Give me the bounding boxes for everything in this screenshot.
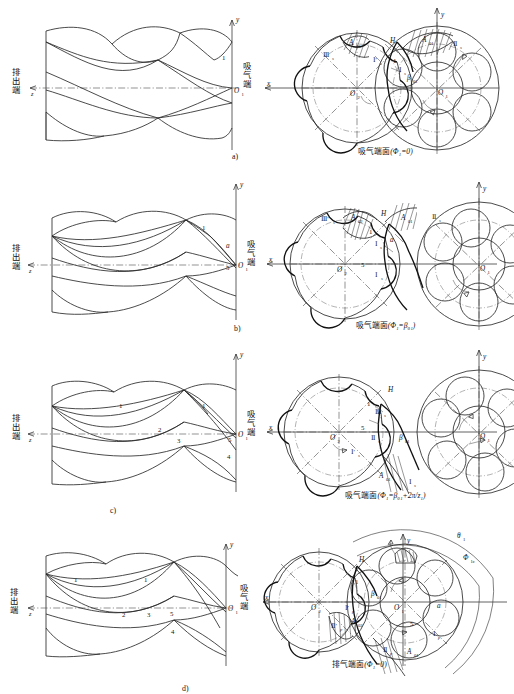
axis-label-y: y bbox=[440, 11, 445, 19]
axis-label-y: y bbox=[229, 541, 234, 549]
callout-I-p: Ⅰ bbox=[433, 630, 436, 637]
point-label-5: 5 bbox=[410, 620, 414, 627]
helix-development-b: 1 a 5 y z O 1 排 出 端 吸 气 端 bbox=[0, 172, 257, 345]
callout-II-s: Ⅱ bbox=[432, 213, 437, 220]
callout-I-s-prime-sub: s bbox=[358, 453, 360, 458]
callout-A01: A bbox=[406, 648, 412, 656]
suction-end-label-b: 吸 气 端 bbox=[247, 240, 255, 267]
callout-I-s-sub: s bbox=[404, 71, 406, 76]
callout-A02-prime: A bbox=[350, 214, 356, 222]
origin-sub-2: 2 bbox=[358, 95, 361, 100]
origin-label-o2: O bbox=[337, 266, 343, 274]
origin-label-o1: O bbox=[238, 431, 244, 439]
origin-sub-1: 1 bbox=[246, 267, 249, 272]
callout-beta01-sub: 01 bbox=[377, 595, 382, 600]
point-label-5: 5 bbox=[170, 610, 174, 617]
discharge-end-label-d: 排 出 端 bbox=[10, 588, 18, 615]
callout-A02-prime-sub: 02 bbox=[356, 44, 361, 49]
helix-development-c: 1 1 2 3 4 5 y z O 1 排 出 端 吸 气 端 bbox=[0, 344, 257, 517]
origin-label-o2: O bbox=[350, 90, 356, 98]
axis-label-z: z bbox=[28, 436, 32, 443]
callout-II-p: Ⅱ bbox=[383, 646, 388, 653]
figure-row-d: 1 1 2 3 4 5 y z O 1 排 出 端 吸 气 端 bbox=[0, 516, 514, 689]
origin-label-o1: O bbox=[480, 433, 486, 441]
callout-I-s-prime-sub: s bbox=[380, 245, 382, 250]
origin-sub-1: 1 bbox=[446, 94, 449, 99]
callout-II-s: Ⅱ bbox=[371, 434, 376, 441]
callout-A02-prime: A bbox=[350, 618, 356, 626]
figure-root: 1 y z O 1 排 出 端 吸 气 端 bbox=[0, 0, 514, 694]
callout-A02-prime-sub: 02 bbox=[358, 623, 363, 628]
callout-III-s: Ⅲ bbox=[323, 51, 329, 58]
figure-letter-a: a) bbox=[232, 152, 238, 161]
callout-A01: A bbox=[421, 36, 427, 44]
point-label-1: 1 bbox=[393, 57, 396, 64]
callout-A01-sub: 01 bbox=[386, 477, 391, 482]
callout-I-s-sub: s bbox=[381, 276, 383, 281]
point-label-5: 5 bbox=[361, 261, 365, 268]
figure-letter-c: c) bbox=[110, 506, 116, 515]
discharge-end-label-b: 排 出 端 bbox=[12, 244, 20, 271]
discharge-end-label-a: 排 出 端 bbox=[12, 68, 20, 95]
figure-letter-b: b) bbox=[234, 324, 241, 333]
callout-theta1-sub: 1 bbox=[463, 537, 466, 542]
callout-III-s-prime-sub: s bbox=[333, 220, 335, 225]
callout-I-s: Ⅰ bbox=[375, 271, 378, 278]
callout-beta01: β bbox=[398, 434, 403, 442]
callout-II-s: Ⅱ bbox=[453, 40, 458, 47]
axis-label-x: x bbox=[268, 256, 273, 264]
origin-label-o1: O bbox=[438, 89, 444, 97]
callout-A02-prime: A bbox=[348, 39, 354, 47]
point-label-5: 5 bbox=[361, 424, 365, 431]
axis-label-z: z bbox=[30, 90, 34, 97]
point-label-5: 5 bbox=[228, 436, 232, 443]
callout-A02-prime-sub: 02 bbox=[358, 219, 363, 224]
section-caption-b: 吸气端面(Φ₁=β₀₁) bbox=[257, 319, 514, 330]
callout-III-s: Ⅲ bbox=[375, 408, 381, 415]
callout-I-s-sub: s bbox=[414, 483, 416, 488]
end-section-b: Ⅲ′ s A 02 ′ H A 01 Ⅱ s 1 Ⅰ s a 5 Ⅰ s O 2 bbox=[257, 172, 514, 345]
point-label-3: 3 bbox=[147, 611, 151, 618]
point-label-1: 1 bbox=[355, 578, 358, 585]
point-label-1: 1 bbox=[367, 400, 370, 407]
figure-letter-d: d) bbox=[182, 684, 189, 693]
callout-II-s-sub: s bbox=[439, 218, 441, 223]
axis-label-x: x bbox=[264, 594, 269, 602]
point-label-1: 1 bbox=[369, 228, 372, 235]
section-caption-a: 吸气端面(Φ₁=0) bbox=[257, 145, 514, 156]
origin-label-o1: O bbox=[234, 87, 240, 95]
origin-label-o1: O bbox=[480, 265, 486, 273]
point-label-5: 5 bbox=[226, 264, 230, 271]
origin-sub-1: 1 bbox=[236, 610, 239, 615]
suction-end-label-a: 吸 气 端 bbox=[243, 62, 251, 89]
end-section-d: θ 1 Φ 1c H 1 β 01 Ⅰ′ p Ⅱ′ p A 02 ′ Ⅱ p A… bbox=[257, 516, 514, 689]
point-label-1-right: 1 bbox=[144, 576, 147, 583]
origin-label-o1: O bbox=[394, 604, 400, 612]
origin-sub-1: 1 bbox=[488, 270, 491, 275]
callout-A01: A bbox=[400, 214, 406, 222]
section-caption-d: 排气端面(Φ₁=0) bbox=[231, 658, 488, 669]
callout-phi1c-sub: 1c bbox=[471, 559, 475, 564]
axis-label-y: y bbox=[482, 185, 487, 193]
figure-row-a: 1 y z O 1 排 出 端 吸 气 端 bbox=[0, 0, 514, 173]
callout-II-s-sub: s bbox=[378, 439, 380, 444]
callout-beta01: β bbox=[406, 74, 411, 82]
callout-H: H bbox=[358, 556, 365, 564]
callout-I-s-prime: Ⅰ bbox=[375, 240, 378, 247]
point-label-a: a bbox=[437, 602, 441, 610]
axis-label-y: y bbox=[406, 537, 411, 545]
callout-H: H bbox=[380, 210, 387, 218]
callout-beta01: β bbox=[370, 590, 375, 598]
point-label-a: a bbox=[226, 242, 230, 250]
origin-sub-1: 1 bbox=[488, 438, 491, 443]
callout-I-s-prime: Ⅰ′ bbox=[351, 448, 356, 455]
callout-theta1: θ bbox=[457, 532, 461, 540]
point-label-2: 2 bbox=[122, 611, 126, 618]
end-section-c: H 1 Ⅲ s 5 Ⅱ s Ⅰ′ s β 01 A 01 Ⅰ s O 2 O 1 bbox=[257, 344, 514, 517]
callout-A01-sub: 01 bbox=[429, 41, 434, 46]
origin-sub-1: 1 bbox=[242, 92, 245, 97]
point-label-4: 4 bbox=[171, 628, 175, 635]
origin-label-o2: O bbox=[311, 604, 317, 612]
callout-beta01-sub: 01 bbox=[413, 79, 418, 84]
helix-development-d: 1 1 2 3 4 5 y z O 1 排 出 端 吸 气 端 bbox=[0, 516, 257, 689]
